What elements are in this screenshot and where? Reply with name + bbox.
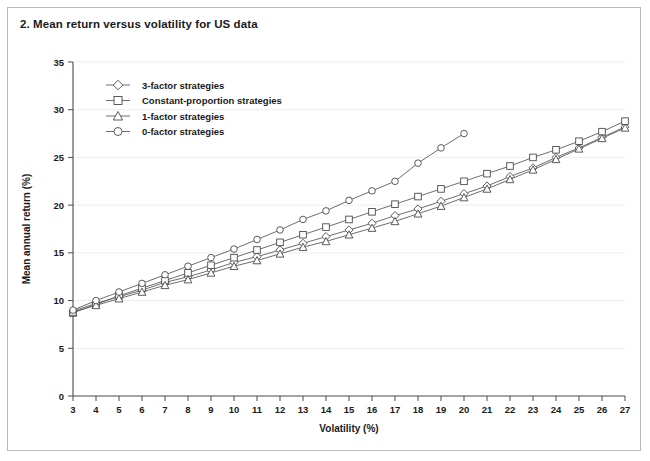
marker-diamond bbox=[113, 80, 123, 90]
marker-square bbox=[438, 186, 445, 193]
marker-circle bbox=[185, 263, 192, 270]
marker-square bbox=[461, 178, 468, 185]
legend-label: 0-factor strategies bbox=[142, 126, 224, 137]
marker-square bbox=[415, 193, 422, 200]
x-axis-tick-label: 25 bbox=[574, 404, 585, 415]
x-axis-tick-label: 5 bbox=[116, 404, 122, 415]
legend-item-3[interactable]: 1-factor strategies bbox=[106, 111, 224, 122]
x-axis-tick-label: 20 bbox=[459, 404, 470, 415]
marker-square bbox=[277, 239, 284, 246]
marker-square bbox=[507, 163, 514, 170]
marker-triangle bbox=[391, 217, 399, 224]
marker-square bbox=[208, 262, 215, 269]
marker-circle bbox=[208, 254, 215, 261]
y-axis-tick-label: 10 bbox=[53, 295, 64, 306]
x-axis-tick-label: 6 bbox=[139, 404, 144, 415]
x-axis-tick-label: 3 bbox=[70, 404, 75, 415]
x-axis-tick-label: 23 bbox=[528, 404, 539, 415]
marker-circle bbox=[162, 272, 169, 279]
y-axis-title: Mean annual return (%) bbox=[21, 174, 32, 285]
marker-circle bbox=[254, 236, 261, 243]
x-axis-tick-label: 14 bbox=[321, 404, 332, 415]
marker-circle bbox=[231, 246, 238, 253]
legend-item-4[interactable]: 0-factor strategies bbox=[106, 126, 224, 137]
x-axis-tick-label: 4 bbox=[93, 404, 99, 415]
x-axis-tick-label: 21 bbox=[482, 404, 493, 415]
marker-square bbox=[346, 216, 353, 223]
marker-square bbox=[323, 224, 330, 231]
marker-square bbox=[553, 146, 560, 153]
line-chart: 0510152025303534567891011121314151617181… bbox=[0, 0, 650, 461]
marker-circle bbox=[70, 307, 77, 314]
legend-label: 1-factor strategies bbox=[142, 111, 224, 122]
y-axis-tick-label: 15 bbox=[53, 247, 64, 258]
marker-square bbox=[392, 201, 399, 208]
marker-circle bbox=[93, 297, 100, 304]
x-axis-tick-label: 17 bbox=[390, 404, 401, 415]
marker-circle bbox=[300, 216, 307, 223]
y-axis-tick-label: 25 bbox=[53, 152, 64, 163]
x-axis-tick-label: 19 bbox=[436, 404, 447, 415]
marker-circle bbox=[415, 160, 422, 167]
x-axis-tick-label: 18 bbox=[413, 404, 424, 415]
marker-square bbox=[484, 170, 491, 177]
legend-label: 3-factor strategies bbox=[142, 80, 224, 91]
marker-circle bbox=[438, 145, 445, 152]
marker-circle bbox=[392, 178, 399, 185]
marker-circle bbox=[323, 208, 330, 215]
marker-square bbox=[300, 231, 307, 238]
series-line bbox=[73, 134, 464, 311]
x-axis-tick-label: 11 bbox=[252, 404, 263, 415]
marker-square bbox=[254, 247, 261, 254]
marker-square bbox=[231, 254, 238, 261]
marker-square bbox=[369, 209, 376, 216]
legend-label: Constant-proportion strategies bbox=[142, 95, 282, 106]
x-axis-tick-label: 26 bbox=[597, 404, 608, 415]
y-axis-tick-label: 20 bbox=[53, 200, 64, 211]
legend-item-1[interactable]: 3-factor strategies bbox=[106, 80, 224, 91]
figure-container: 2. Mean return versus volatility for US … bbox=[0, 0, 650, 461]
x-axis-tick-label: 12 bbox=[275, 404, 286, 415]
marker-circle bbox=[369, 188, 376, 195]
y-axis-tick-label: 35 bbox=[53, 57, 64, 68]
x-axis-tick-label: 10 bbox=[229, 404, 240, 415]
legend-item-2[interactable]: Constant-proportion strategies bbox=[106, 95, 282, 106]
x-axis-tick-label: 24 bbox=[551, 404, 562, 415]
marker-circle bbox=[114, 128, 122, 136]
marker-circle bbox=[116, 289, 123, 296]
y-axis-tick-label: 30 bbox=[53, 104, 64, 115]
y-axis-tick-label: 5 bbox=[59, 343, 65, 354]
marker-circle bbox=[461, 130, 468, 137]
marker-circle bbox=[346, 197, 353, 204]
marker-circle bbox=[139, 280, 146, 287]
x-axis-tick-label: 7 bbox=[162, 404, 167, 415]
x-axis-tick-label: 13 bbox=[298, 404, 309, 415]
chart-plot-area: 0510152025303534567891011121314151617181… bbox=[0, 0, 650, 461]
x-axis-tick-label: 15 bbox=[344, 404, 355, 415]
x-axis-tick-label: 8 bbox=[185, 404, 190, 415]
x-axis-tick-label: 22 bbox=[505, 404, 516, 415]
x-axis-title: Volatility (%) bbox=[319, 423, 378, 434]
y-axis-tick-label: 0 bbox=[59, 391, 64, 402]
x-axis-tick-label: 9 bbox=[208, 404, 213, 415]
marker-square bbox=[114, 97, 122, 105]
marker-square bbox=[530, 154, 537, 161]
marker-circle bbox=[277, 227, 284, 234]
x-axis-tick-label: 16 bbox=[367, 404, 378, 415]
marker-square bbox=[576, 138, 583, 145]
x-axis-tick-label: 27 bbox=[620, 404, 631, 415]
